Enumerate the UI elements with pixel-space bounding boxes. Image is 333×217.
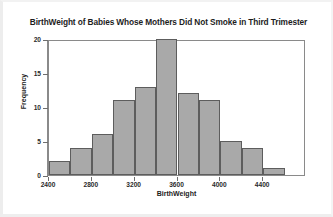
y-tick-label: 10 <box>1 104 41 111</box>
y-tick-label: 20 <box>1 36 41 43</box>
histogram-bar <box>113 100 134 175</box>
x-tick-label: 4400 <box>242 181 282 188</box>
x-tick-label: 2400 <box>28 181 68 188</box>
histogram-bar <box>156 39 177 175</box>
x-axis-title: BirthWeight <box>48 190 305 197</box>
x-tick-label: 3600 <box>157 181 197 188</box>
histogram-bar <box>70 148 91 175</box>
y-axis-title: Frequency <box>20 57 27 127</box>
y-tick-label: 0 <box>1 172 41 179</box>
histogram-bar <box>135 87 156 175</box>
x-tick-label: 3200 <box>114 181 154 188</box>
histogram-bar <box>242 148 263 175</box>
histogram-bar <box>199 100 220 175</box>
chart-title: BirthWeight of Babies Whose Mothers Did … <box>16 17 321 27</box>
histogram-bars <box>49 41 304 175</box>
histogram-bar <box>49 161 70 175</box>
x-tick-label: 2800 <box>71 181 111 188</box>
histogram-bar <box>92 134 113 175</box>
histogram-bar <box>263 168 284 175</box>
y-tick-label: 5 <box>1 138 41 145</box>
chart-page: BirthWeight of Babies Whose Mothers Did … <box>0 0 333 217</box>
histogram-bar <box>220 141 241 175</box>
histogram-bar <box>178 93 199 175</box>
y-tick-label: 15 <box>1 70 41 77</box>
x-tick-label: 4000 <box>199 181 239 188</box>
plot-area <box>48 40 305 176</box>
